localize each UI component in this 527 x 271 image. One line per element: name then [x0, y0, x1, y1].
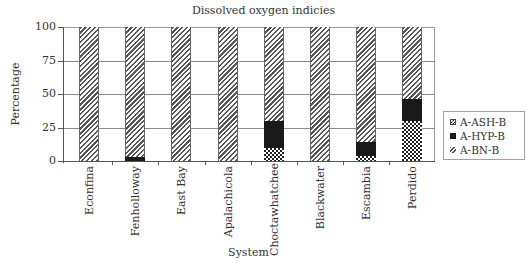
bar-segment-a-bn-b	[356, 27, 376, 142]
bar-segment-a-ash-b	[356, 156, 376, 161]
bar-segment-a-bn-b	[125, 27, 145, 157]
bar-segment-a-bn-b	[264, 27, 284, 121]
bar-segment-a-ash-b	[264, 148, 284, 161]
gridline-25	[63, 128, 435, 129]
hatched-swatch-icon	[450, 147, 456, 153]
bar-segment-a-bn-b	[218, 27, 238, 161]
bar-econfina	[79, 27, 99, 161]
bar-segment-a-bn-b	[171, 27, 191, 161]
bar-east-bay	[171, 27, 191, 161]
solid-swatch-icon	[450, 133, 456, 139]
legend-item-ash: A-ASH-B	[444, 115, 524, 129]
y-tick-label: 100	[20, 21, 56, 33]
legend-label: A-HYP-B	[460, 130, 505, 142]
bar-segment-a-hyp-b	[264, 121, 284, 148]
legend-item-bn: A-BN-B	[444, 143, 524, 157]
bar-escambia	[356, 27, 376, 161]
checkered-swatch-icon	[450, 119, 456, 125]
x-tick-mark	[389, 161, 390, 165]
legend-label: A-BN-B	[460, 144, 499, 156]
x-axis-title: System	[0, 246, 497, 259]
bar-segment-a-bn-b	[402, 27, 422, 99]
y-tick-mark	[58, 128, 63, 129]
x-tick-mark	[158, 161, 159, 165]
bar-fenholloway	[125, 27, 145, 161]
gridline-75	[63, 61, 435, 62]
y-tick-mark	[58, 27, 63, 28]
x-tick-mark	[205, 161, 206, 165]
y-tick-label: 0	[20, 155, 56, 167]
bar-segment-a-hyp-b	[125, 157, 145, 161]
chart-title: Dissolved oxygen indicies	[0, 4, 527, 17]
bar-segment-a-bn-b	[79, 27, 99, 161]
bar-segment-a-hyp-b	[356, 142, 376, 155]
bar-segment-a-hyp-b	[402, 99, 422, 120]
x-tick-label: Perdido	[406, 166, 419, 256]
y-tick-label: 50	[20, 88, 56, 100]
bar-blackwater	[310, 27, 330, 161]
x-tick-label: East Bay	[175, 166, 188, 256]
y-tick-label: 25	[20, 122, 56, 134]
y-tick-mark	[58, 94, 63, 95]
x-tick-label: Apalachicola	[222, 166, 235, 256]
x-axis	[63, 161, 435, 162]
bar-perdido	[402, 27, 422, 161]
x-tick-label: Econfina	[83, 166, 96, 256]
legend-item-hyp: A-HYP-B	[444, 129, 524, 143]
y-tick-label: 75	[20, 55, 56, 67]
bar-apalachicola	[218, 27, 238, 161]
legend: A-ASH-B A-HYP-B A-BN-B	[443, 111, 525, 160]
x-tick-mark	[112, 161, 113, 165]
x-tick-label: Blackwater	[314, 166, 327, 256]
bar-segment-a-ash-b	[402, 121, 422, 161]
x-tick-label: Fenholloway	[129, 166, 142, 256]
x-tick-mark	[297, 161, 298, 165]
x-tick-mark	[251, 161, 252, 165]
y-axis	[63, 27, 64, 163]
gridline-50	[63, 94, 435, 95]
x-tick-label: Choctawhatchee	[268, 166, 281, 256]
legend-label: A-ASH-B	[460, 116, 506, 128]
y-tick-mark	[58, 61, 63, 62]
bar-choctawhatchee	[264, 27, 284, 161]
bar-segment-a-bn-b	[310, 27, 330, 161]
y-axis-title: Percentage	[9, 63, 22, 126]
x-tick-label: Escambia	[360, 166, 373, 256]
x-tick-mark	[343, 161, 344, 165]
y-tick-mark	[58, 161, 63, 162]
